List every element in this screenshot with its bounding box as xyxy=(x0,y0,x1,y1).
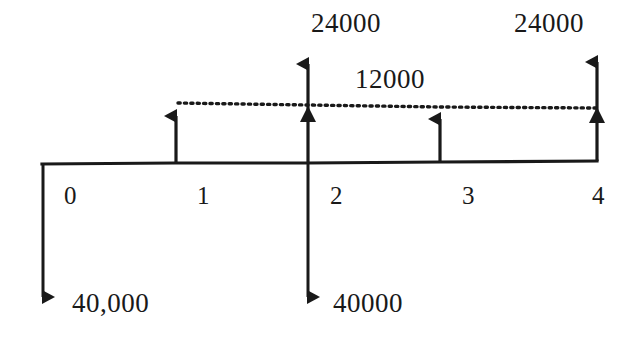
amount-label-disbursement-t0: 40,000 xyxy=(72,288,149,319)
period-label-1: 1 xyxy=(197,182,210,210)
time-axis-baseline xyxy=(42,161,597,164)
receipt-arrowhead-t4-series xyxy=(589,107,605,123)
amount-label-disbursement-t2: 40000 xyxy=(333,288,403,319)
amount-label-receipt-t2: 24000 xyxy=(311,8,381,39)
period-label-2: 2 xyxy=(330,182,343,210)
period-label-0: 0 xyxy=(64,182,77,210)
receipt-arrowhead-t2-series xyxy=(300,106,316,122)
amount-label-annual-series: 12000 xyxy=(355,64,425,95)
period-label-3: 3 xyxy=(462,182,475,210)
cash-flow-diagram: 24000 24000 12000 40,000 40000 0 1 2 3 4 xyxy=(0,0,640,349)
amount-label-receipt-t4: 24000 xyxy=(514,8,584,39)
period-label-4: 4 xyxy=(592,182,605,210)
annual-series-dotted-line xyxy=(178,103,596,108)
